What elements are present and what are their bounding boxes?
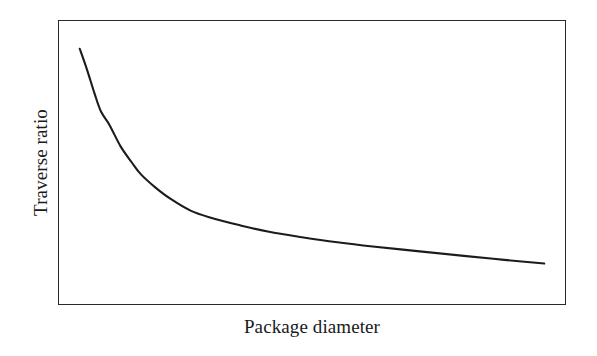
data-curve-traverse-ratio: [80, 49, 545, 264]
y-axis-label: Traverse ratio: [28, 20, 54, 305]
plot-area-frame: [58, 20, 566, 305]
x-axis-label: Package diameter: [58, 316, 566, 338]
chart-figure: Traverse ratio Package diameter: [0, 0, 597, 356]
curve-svg: [59, 21, 565, 304]
